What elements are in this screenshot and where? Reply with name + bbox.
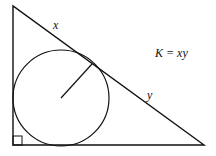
diagram: x y K = xy (0, 0, 216, 156)
radius-line (61, 64, 92, 98)
triangle-figure: x y K = xy (0, 0, 216, 156)
right-angle-marker (13, 136, 22, 145)
right-triangle (13, 6, 204, 145)
label-x: x (52, 18, 59, 32)
formula-label: K = xy (154, 46, 188, 60)
label-y: y (146, 88, 153, 102)
